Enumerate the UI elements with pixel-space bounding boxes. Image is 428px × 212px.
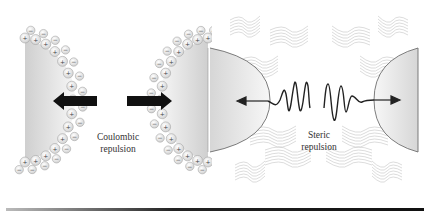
- svg-text:+: +: [169, 58, 174, 65]
- svg-text:+: +: [176, 48, 181, 55]
- svg-text:+: +: [195, 157, 200, 164]
- steric-diagram: [210, 0, 428, 212]
- svg-text:+: +: [163, 69, 168, 76]
- svg-text:−: −: [175, 37, 180, 44]
- svg-text:−: −: [152, 120, 157, 127]
- svg-text:+: +: [60, 135, 65, 142]
- svg-text:−: −: [80, 88, 85, 95]
- right-wave-icon: [324, 84, 374, 120]
- svg-text:+: +: [163, 123, 168, 130]
- svg-text:+: +: [169, 135, 174, 142]
- svg-text:+: +: [185, 40, 190, 47]
- svg-text:+: +: [60, 58, 65, 65]
- svg-text:−: −: [157, 60, 162, 67]
- svg-text:+: +: [69, 82, 74, 89]
- svg-text:−: −: [200, 166, 205, 173]
- svg-text:+: +: [185, 152, 190, 159]
- svg-text:+: +: [160, 82, 165, 89]
- svg-text:−: −: [72, 133, 77, 140]
- svg-text:−: −: [63, 46, 68, 53]
- svg-text:−: −: [53, 36, 58, 43]
- label-line-2: repulsion: [289, 141, 349, 153]
- svg-text:+: +: [22, 158, 27, 165]
- svg-text:−: −: [42, 162, 47, 169]
- svg-text:+: +: [52, 145, 57, 152]
- svg-text:−: −: [64, 145, 69, 152]
- svg-text:−: −: [77, 72, 82, 79]
- svg-text:−: −: [166, 146, 171, 153]
- svg-text:−: −: [158, 134, 163, 141]
- svg-text:−: −: [17, 166, 22, 173]
- svg-text:−: −: [187, 163, 192, 170]
- svg-text:+: +: [43, 40, 48, 47]
- svg-text:−: −: [149, 89, 154, 96]
- label-line-2: repulsion: [78, 143, 158, 155]
- svg-text:+: +: [160, 110, 165, 117]
- coulombic-repulsion-label: Coulombic repulsion: [78, 131, 158, 155]
- svg-text:+: +: [43, 152, 48, 159]
- svg-text:−: −: [54, 155, 59, 162]
- svg-text:+: +: [66, 69, 71, 76]
- svg-text:−: −: [30, 166, 35, 173]
- svg-text:+: +: [33, 157, 38, 164]
- steric-repulsion-label: Steric repulsion: [289, 129, 349, 153]
- svg-text:−: −: [77, 119, 82, 126]
- svg-text:−: −: [198, 27, 203, 34]
- bottom-rule: [6, 208, 424, 211]
- svg-text:−: −: [151, 74, 156, 81]
- svg-text:+: +: [176, 145, 181, 152]
- coulombic-repulsion-panel: +−+−+−+−+−+−+−+−+−+−+−+−+−+−+− +−+−+−+−+…: [0, 0, 212, 212]
- svg-text:−: −: [186, 30, 191, 37]
- svg-text:+: +: [52, 48, 57, 55]
- svg-text:−: −: [165, 47, 170, 54]
- svg-text:−: −: [71, 58, 76, 65]
- svg-text:−: −: [176, 156, 181, 163]
- left-wave-icon: [268, 82, 310, 111]
- coulombic-diagram: +−+−+−+−+−+−+−+−+−+−+−+−+−+−+− +−+−+−+−+…: [0, 0, 212, 212]
- label-line-1: Steric: [289, 129, 349, 141]
- steric-repulsion-panel: Steric repulsion: [210, 0, 428, 212]
- svg-text:+: +: [33, 36, 38, 43]
- svg-text:+: +: [69, 110, 74, 117]
- svg-text:+: +: [195, 36, 200, 43]
- label-line-1: Coulombic: [78, 131, 158, 143]
- svg-text:+: +: [66, 123, 71, 130]
- svg-text:−: −: [41, 30, 46, 37]
- svg-text:−: −: [28, 27, 33, 34]
- svg-text:+: +: [22, 34, 27, 41]
